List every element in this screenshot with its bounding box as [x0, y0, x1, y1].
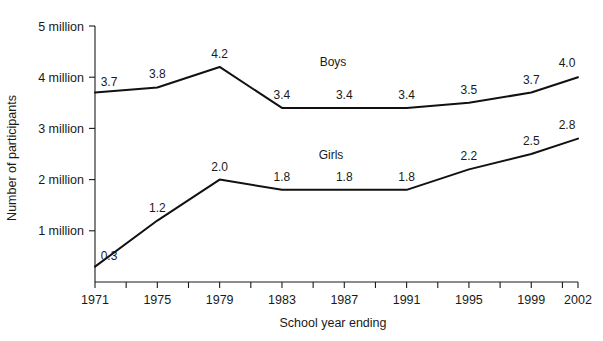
data-point-label: 3.7 [101, 75, 118, 89]
x-axis-tick-label: 2002 [564, 293, 592, 307]
y-axis-tick-label: 3 million [38, 122, 84, 136]
x-axis-tick-label: 1991 [393, 293, 421, 307]
data-point-label: 1.8 [274, 170, 291, 184]
data-point-label: 1.2 [149, 201, 166, 215]
x-axis-tick-label: 1995 [455, 293, 483, 307]
data-point-label: 1.8 [336, 170, 353, 184]
data-point-label: 3.4 [398, 88, 415, 102]
data-point-label: 3.5 [461, 83, 478, 97]
x-axis-title: School year ending [279, 316, 386, 330]
chart-container: 1 million2 million3 million4 million5 mi… [0, 0, 603, 341]
y-axis-tick-label: 4 million [38, 71, 84, 85]
series-label-girls: Girls [319, 148, 344, 162]
data-point-label: 4.0 [559, 56, 576, 70]
x-axis-tick-label: 1983 [268, 293, 296, 307]
data-point-label: 3.7 [523, 73, 540, 87]
y-axis: 1 million2 million3 million4 million5 mi… [38, 20, 95, 283]
y-axis-title: Number of participants [5, 95, 19, 221]
data-point-label: 3.8 [149, 67, 166, 81]
data-point-label: 1.8 [398, 170, 415, 184]
y-axis-tick-label: 2 million [38, 173, 84, 187]
data-point-label: 0.3 [101, 249, 118, 263]
data-point-label: 2.5 [523, 134, 540, 148]
data-point-label: 2.8 [559, 118, 576, 132]
data-point-label: 3.4 [274, 88, 291, 102]
x-axis: 197119751979198319871991199519992002 [81, 282, 592, 307]
x-axis-tick-label: 1975 [143, 293, 171, 307]
y-axis-tick-label: 1 million [38, 224, 84, 238]
x-axis-tick-label: 1979 [206, 293, 234, 307]
line-chart-svg: 1 million2 million3 million4 million5 mi… [0, 0, 603, 341]
data-point-label: 3.4 [336, 88, 353, 102]
data-point-label: 2.0 [211, 160, 228, 174]
x-axis-tick-label: 1999 [517, 293, 545, 307]
y-axis-tick-label: 5 million [38, 20, 84, 34]
series-label-boys: Boys [320, 55, 347, 69]
data-point-label: 4.2 [211, 47, 228, 61]
x-axis-tick-label: 1971 [81, 293, 109, 307]
x-axis-tick-label: 1987 [330, 293, 358, 307]
data-point-label: 2.2 [461, 149, 478, 163]
